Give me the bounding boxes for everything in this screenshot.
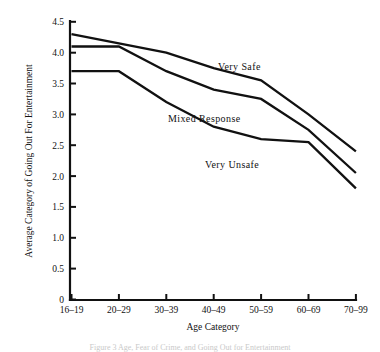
line-chart: 0 0.5 1.0 1.5 2.0 2.5 3.0 3.5 4.0 4.5 16… — [0, 0, 380, 352]
y-tick-label: 0 — [59, 295, 64, 305]
y-tick-label: 3.0 — [52, 110, 64, 120]
series-line-mixed-response — [72, 46, 356, 173]
y-tick-label: 0.5 — [52, 264, 64, 274]
x-tick-label: 20–29 — [107, 305, 131, 315]
figure-caption: Figure 3 Age, Fear of Crime, and Going O… — [0, 342, 380, 352]
y-tick-label: 3.5 — [52, 79, 64, 89]
series-label-very-unsafe: Very Unsafe — [205, 159, 259, 170]
series-label-very-safe: Very Safe — [218, 61, 261, 72]
x-axis-title: Age Category — [186, 322, 239, 332]
y-tick-label: 1.0 — [52, 233, 64, 243]
y-tick-label: 2.0 — [52, 172, 64, 182]
x-tick-label: 70–99 — [344, 305, 368, 315]
series-label-mixed-response: Mixed Response — [168, 113, 241, 124]
y-tick-label: 4.5 — [52, 17, 64, 27]
x-tick-label: 50–59 — [249, 305, 273, 315]
y-axis-title: Average Category of Going Out For Entert… — [24, 64, 34, 258]
y-axis-ticks: 0 0.5 1.0 1.5 2.0 2.5 3.0 3.5 4.0 4.5 — [52, 17, 76, 305]
y-tick-label: 2.5 — [52, 141, 64, 151]
x-tick-label: 40–49 — [202, 305, 226, 315]
y-tick-label: 1.5 — [52, 202, 64, 212]
figure-container: 0 0.5 1.0 1.5 2.0 2.5 3.0 3.5 4.0 4.5 16… — [0, 0, 380, 352]
x-tick-label: 30–39 — [154, 305, 178, 315]
x-axis-ticks: 16–19 20–29 30–39 40–49 50–59 60–69 70–9… — [60, 294, 368, 315]
x-tick-label: 16–19 — [60, 305, 84, 315]
y-tick-label: 4.0 — [52, 48, 64, 58]
x-tick-label: 60–69 — [297, 305, 321, 315]
